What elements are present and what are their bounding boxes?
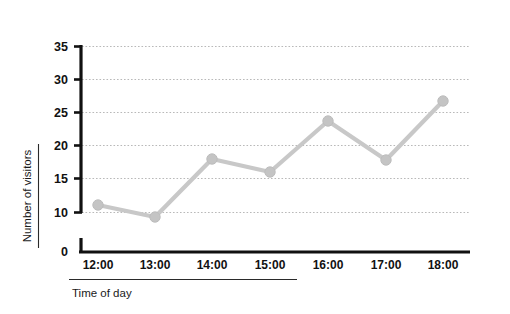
- data-point-marker: [93, 200, 103, 210]
- data-point-marker: [438, 96, 448, 106]
- x-tick-label: 12:00: [83, 258, 114, 272]
- y-tick-label: 20: [54, 139, 68, 153]
- x-axis-title: Time of day: [72, 287, 132, 299]
- y-axis-title: Number of visitors: [21, 149, 33, 242]
- y-tick-label: 10: [54, 206, 68, 220]
- x-tick-label: 15:00: [255, 258, 286, 272]
- line-chart-canvas: 35 30 25 20 15 10 0 Number of visitors 1…: [0, 0, 510, 314]
- y-tick-label: 15: [54, 172, 68, 186]
- data-point-marker: [207, 154, 217, 164]
- data-point-marker: [381, 155, 391, 165]
- x-tick-label: 13:00: [140, 258, 171, 272]
- y-tick-label: 30: [54, 73, 68, 87]
- x-tick-label: 18:00: [428, 258, 459, 272]
- data-point-marker: [150, 212, 160, 222]
- data-point-marker: [265, 167, 275, 177]
- y-tick-label: 0: [61, 245, 68, 259]
- chart-figure: 35 30 25 20 15 10 0 Number of visitors 1…: [0, 0, 510, 314]
- x-tick-label: 14:00: [197, 258, 228, 272]
- y-tick-label: 35: [54, 40, 68, 54]
- x-tick-label: 16:00: [313, 258, 344, 272]
- data-point-marker: [323, 116, 333, 126]
- y-tick-label: 25: [54, 106, 68, 120]
- x-tick-label: 17:00: [371, 258, 402, 272]
